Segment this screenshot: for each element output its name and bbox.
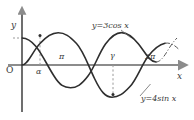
tick-label-alpha: α: [36, 68, 41, 76]
intersection-point-alpha: [39, 34, 42, 37]
x-axis-label: x: [177, 72, 182, 81]
tick-label-pi: π: [59, 53, 64, 61]
curve-label-cos: y=3cos x: [92, 22, 129, 30]
tick-label-gamma: γ: [110, 52, 115, 60]
cos-label-leader: [121, 30, 131, 38]
cos-curve-extension: [156, 38, 177, 62]
curve-label-cos-rhs: 3cos x: [103, 21, 129, 30]
trig-graph-figure: y x O α π γ 2π y=3cos x y=4sin x: [0, 0, 194, 120]
origin-label: O: [6, 66, 13, 75]
y-axis-label: y: [11, 21, 16, 30]
intersection-point-gamma: [112, 93, 115, 96]
sin-curve-extension: [165, 43, 179, 49]
curve-label-sin-rhs: 4sin x: [152, 94, 176, 103]
curve-label-sin: y=4sin x: [141, 95, 176, 103]
tick-label-two-pi: 2π: [145, 53, 155, 61]
